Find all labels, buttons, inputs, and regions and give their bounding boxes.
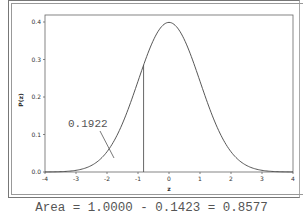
annotation-label: 0.1922 bbox=[68, 118, 108, 130]
x-tick-label: -4 bbox=[42, 175, 48, 182]
x-tick-label: -1 bbox=[135, 175, 141, 182]
y-tick-label: 0.2 bbox=[31, 93, 41, 100]
y-axis-title: P(z) bbox=[17, 93, 24, 107]
y-axis: 0.00.10.20.30.4 bbox=[31, 18, 45, 175]
plot-area bbox=[45, 15, 293, 172]
area-caption: Area = 1.0000 - 0.1423 = 0.8577 bbox=[0, 201, 303, 215]
y-tick-label: 0.1 bbox=[31, 131, 41, 138]
x-tick-label: 4 bbox=[291, 175, 295, 182]
x-tick-label: 0 bbox=[167, 175, 171, 182]
x-axis: -4-3-2-101234 bbox=[42, 172, 295, 182]
normal-density-chart: 0.00.10.20.30.4 -4-3-2-101234 P(z) z 0.1… bbox=[0, 0, 303, 220]
x-tick-label: -3 bbox=[73, 175, 79, 182]
x-tick-label: 2 bbox=[229, 175, 233, 182]
y-tick-label: 0.3 bbox=[31, 56, 41, 63]
y-tick-label: 0.0 bbox=[31, 168, 41, 175]
y-tick-label: 0.4 bbox=[31, 18, 41, 25]
x-tick-label: 1 bbox=[198, 175, 202, 182]
x-tick-label: 3 bbox=[260, 175, 264, 182]
x-tick-label: -2 bbox=[104, 175, 110, 182]
x-axis-title: z bbox=[167, 185, 171, 192]
